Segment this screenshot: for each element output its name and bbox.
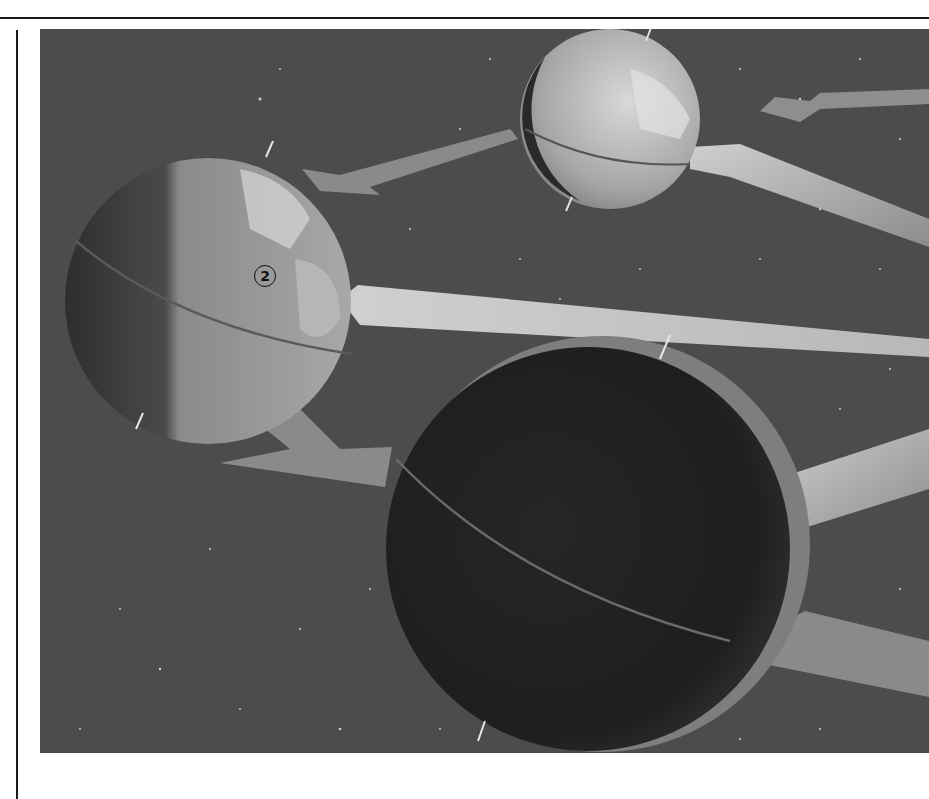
large-globe [386,335,810,752]
sunlight-arrow-top-right [760,89,929,122]
medium-globe [65,141,352,444]
margin-rule [16,30,18,799]
orbit-arrow-small-to-medium [302,129,518,195]
earth-orbit-figure: 2 [40,29,929,753]
callout-number: 2 [260,269,270,283]
sunlight-beam-small-globe [690,144,929,247]
top-rule [0,17,929,19]
small-globe [520,29,700,211]
figure-illustration [40,29,929,753]
callout-label: 2 [254,265,276,287]
